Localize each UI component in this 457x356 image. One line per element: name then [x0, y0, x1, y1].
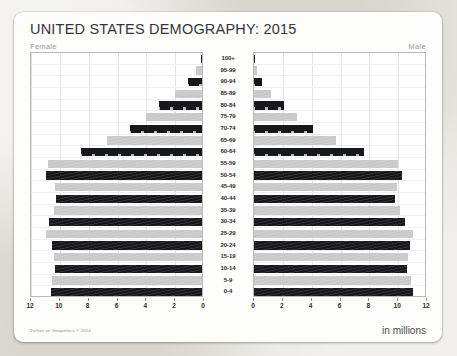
- axis-tick: [174, 298, 175, 301]
- bar-row: [254, 101, 425, 110]
- age-group-label: 95-99: [203, 67, 253, 73]
- female-bar: [201, 55, 202, 64]
- age-group-label: 0-4: [203, 288, 253, 294]
- axis-tick: [426, 298, 427, 301]
- bar-row: [254, 55, 425, 64]
- row-separator: [31, 274, 202, 275]
- legend-female-label: Female: [30, 42, 57, 51]
- male-bar: [254, 160, 398, 169]
- chart-card: UNITED STATES DEMOGRAPHY: 2015 Female Ma…: [14, 12, 442, 342]
- age-group-label: 40-44: [203, 195, 253, 201]
- axis-tick: [397, 298, 398, 301]
- age-group-label: 75-79: [203, 113, 253, 119]
- female-bars-panel: [30, 52, 203, 297]
- age-group-label: 5-9: [203, 277, 253, 283]
- axis-tick: [88, 298, 89, 301]
- bar-row: [31, 253, 202, 262]
- male-bar: [254, 206, 400, 215]
- axis-tick-label: 4: [144, 302, 148, 309]
- bar-row: [31, 136, 202, 145]
- axis-tick-label: 12: [26, 302, 33, 309]
- female-bar: [175, 90, 202, 99]
- male-bar: [254, 148, 364, 157]
- bar-row: [254, 78, 425, 87]
- bar-row: [254, 160, 425, 169]
- age-group-label: 90-94: [203, 78, 253, 84]
- axis-tick: [117, 298, 118, 301]
- row-separator: [31, 215, 202, 216]
- bar-row: [31, 241, 202, 250]
- axis-tick: [311, 298, 312, 301]
- row-separator: [31, 157, 202, 158]
- bar-row: [254, 113, 425, 122]
- male-bar: [254, 125, 313, 134]
- bar-row: [31, 230, 202, 239]
- row-separator: [31, 227, 202, 228]
- row-separator: [31, 250, 202, 251]
- age-group-label: 60-64: [203, 148, 253, 154]
- age-group-label: 45-49: [203, 183, 253, 189]
- age-group-label: 15-19: [203, 253, 253, 259]
- row-separator: [254, 250, 425, 251]
- male-bar: [254, 253, 408, 262]
- male-bar: [254, 288, 413, 297]
- row-separator: [254, 134, 425, 135]
- axis-tick-label: 4: [309, 302, 313, 309]
- row-separator: [31, 169, 202, 170]
- row-separator: [31, 285, 202, 286]
- axis-tick: [282, 298, 283, 301]
- age-group-label: 55-59: [203, 160, 253, 166]
- row-separator: [254, 285, 425, 286]
- bar-row: [31, 148, 202, 157]
- axis-tick: [59, 298, 60, 301]
- bar-row: [31, 101, 202, 110]
- female-bar: [55, 265, 202, 274]
- row-separator: [254, 145, 425, 146]
- axis-tick-label: 6: [338, 302, 342, 309]
- bar-row: [254, 288, 425, 297]
- row-separator: [254, 215, 425, 216]
- bar-row: [254, 241, 425, 250]
- axis-tick-label: 2: [280, 302, 284, 309]
- row-separator: [254, 204, 425, 205]
- bar-row: [31, 55, 202, 64]
- axis-tick-label: 10: [394, 302, 401, 309]
- bar-row: [254, 148, 425, 157]
- age-group-label: 70-74: [203, 125, 253, 131]
- axis-tick: [340, 298, 341, 301]
- row-separator: [31, 87, 202, 88]
- credit-text: Zeihan on Geopolitics © 2014: [30, 328, 91, 333]
- row-separator: [254, 192, 425, 193]
- axis-tick-label: 12: [422, 302, 429, 309]
- male-bar: [254, 101, 284, 110]
- bar-row: [254, 253, 425, 262]
- female-bar: [46, 230, 202, 239]
- bar-row: [254, 136, 425, 145]
- axis-tick-label: 10: [55, 302, 62, 309]
- male-bar: [254, 171, 402, 180]
- row-separator: [31, 75, 202, 76]
- bar-row: [31, 195, 202, 204]
- bar-row: [31, 288, 202, 297]
- age-group-label: 100+: [203, 55, 253, 61]
- page-title: UNITED STATES DEMOGRAPHY: 2015: [30, 21, 297, 37]
- male-bar: [254, 136, 336, 145]
- axis-tick: [368, 298, 369, 301]
- bar-row: [254, 206, 425, 215]
- row-separator: [31, 134, 202, 135]
- age-group-label: 25-29: [203, 230, 253, 236]
- male-bar: [254, 183, 397, 192]
- male-bar: [254, 276, 411, 285]
- row-separator: [31, 239, 202, 240]
- male-bar: [254, 241, 410, 250]
- bar-row: [31, 160, 202, 169]
- female-bar: [55, 183, 202, 192]
- female-bar: [159, 101, 202, 110]
- female-x-axis: 121086420: [30, 298, 203, 314]
- axis-tick-label: 0: [251, 302, 255, 309]
- axis-tick: [253, 298, 254, 301]
- bar-row: [31, 276, 202, 285]
- age-group-label: 20-24: [203, 242, 253, 248]
- bar-row: [254, 66, 425, 75]
- female-bar: [107, 136, 202, 145]
